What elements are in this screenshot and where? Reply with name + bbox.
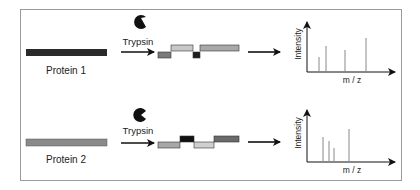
pacman-icon — [133, 108, 146, 122]
mass-spectrum-2: Intensity m / z — [293, 110, 395, 175]
protein-1-label: Protein 1 — [46, 65, 86, 76]
protein-2-label: Protein 2 — [46, 154, 86, 165]
peptide-fragments-2 — [158, 136, 239, 148]
protein-1-bar — [26, 49, 107, 56]
x-axis-label-2: m / z — [343, 165, 361, 175]
mass-spectrum-1: Intensity m / z — [293, 22, 395, 85]
y-axis-label-2: Intensity — [293, 116, 303, 148]
peptide-fragments-1 — [158, 45, 239, 58]
y-axis-label-1: Intensity — [293, 27, 303, 59]
trypsin-label-1: Trypsin — [123, 36, 154, 47]
protein-2-bar — [26, 139, 107, 146]
row-protein-2: Protein 2 Trypsin Intensity m / z — [26, 108, 395, 175]
x-axis-label-1: m / z — [343, 75, 361, 85]
pacman-icon — [134, 15, 146, 29]
proteolysis-diagram: Protein 1 Trypsin Intensity m / z Protei… — [0, 0, 420, 190]
trypsin-label-2: Trypsin — [123, 125, 154, 136]
row-protein-1: Protein 1 Trypsin Intensity m / z — [26, 15, 395, 85]
